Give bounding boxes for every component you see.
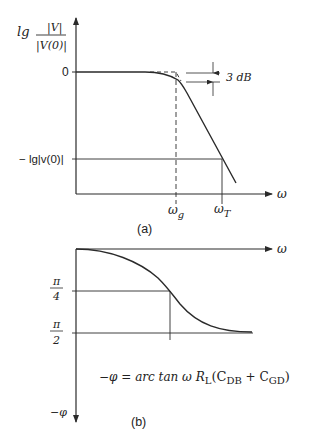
figure-b-phase-plot: ω −φ π 4 π 2 −φ = arc tan ω RL(CDB + CGD… (50, 242, 290, 429)
b-caption: (b) (131, 415, 146, 429)
a-3db-label: 3 dB (226, 71, 252, 84)
a-y-label-denominator: |V(0)| (36, 39, 67, 53)
a-caption: (a) (137, 222, 152, 236)
a-magnitude-curve (76, 72, 236, 183)
a-omega-g-label: ωg (168, 203, 184, 220)
a-omega-t-label: ωT (214, 202, 232, 219)
b-tick-pi4-den: 4 (52, 290, 60, 303)
b-tick-pi2-den: 2 (52, 334, 60, 347)
a-x-axis-label: ω (277, 187, 287, 201)
b-x-axis-label: ω (277, 242, 287, 256)
a-tick-low: − lg|v(0)| (19, 153, 64, 165)
b-tick-pi2-num: π (52, 318, 61, 331)
b-y-axis-label: −φ (50, 406, 67, 419)
b-tick-pi4-num: π (52, 275, 61, 288)
a-tick-zero: 0 (62, 65, 69, 79)
b-phase-curve (76, 249, 252, 332)
figure-a-magnitude-plot: lg |V| |V(0)| 0 − lg|v(0)| 3 dB ω ωg ωT … (17, 18, 287, 236)
b-formula: −φ = arc tan ω RL(CDB + CGD) (99, 369, 290, 386)
a-y-label-prefix: lg (17, 24, 29, 39)
bode-diagram: lg |V| |V(0)| 0 − lg|v(0)| 3 dB ω ωg ωT … (0, 0, 309, 442)
a-y-label-numerator: |V| (47, 21, 62, 35)
